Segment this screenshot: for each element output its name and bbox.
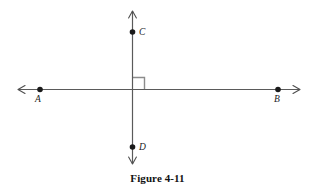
right-angle-marker: [133, 78, 145, 90]
point-d-label: D: [138, 142, 146, 152]
figure-caption: Figure 4-11: [0, 172, 315, 184]
point-c-label: C: [139, 27, 146, 37]
point-a-dot: [37, 87, 43, 93]
figure-container: A B C D Figure 4-11: [0, 0, 315, 189]
point-a-label: A: [34, 94, 41, 104]
point-c-dot: [130, 29, 136, 35]
point-d-dot: [130, 144, 136, 150]
point-b-dot: [275, 87, 281, 93]
geometry-diagram: A B C D: [0, 0, 315, 189]
point-b-label: B: [274, 94, 280, 104]
